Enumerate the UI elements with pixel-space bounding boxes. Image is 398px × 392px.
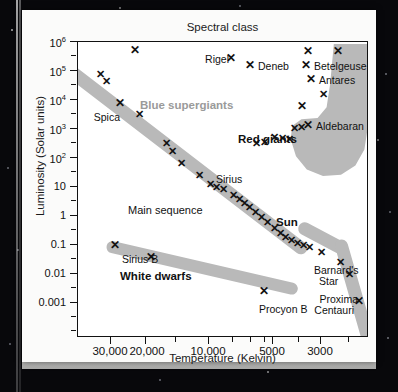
label-sirius-b: Sirius B [122, 253, 158, 265]
y-tick-minor [71, 55, 76, 56]
y-tick-label-1e2: 102 [50, 151, 66, 165]
y-tick-minor [71, 84, 76, 85]
x-tick-minor [298, 337, 299, 342]
data-point: ✕ [130, 44, 140, 56]
data-point-antares: ✕ [306, 73, 316, 85]
label-aldebaran: Aldebaran [316, 120, 364, 132]
label-spica: Spica [94, 111, 120, 123]
y-tick-minor [71, 142, 76, 143]
label-barnards-star: Star [319, 275, 338, 287]
y-tick-minor [71, 258, 76, 259]
y-tick-label-0.1: 0.1 [51, 238, 66, 250]
y-tick-10 [70, 186, 77, 187]
plot-area: ✕ ✕ ✕ ✕ ✕ ✕ ✕ ✕ ✕ ✕ ✕ ✕ ✕ ✕ ✕ ✕ ✕ ✕ ✕ ✕ … [77, 41, 368, 337]
y-tick-minor [71, 330, 76, 331]
label-blue-supergiants: Blue supergiants [140, 99, 233, 111]
spectral-class-title: Spectral class [77, 21, 368, 33]
label-rigel: Rigel [205, 53, 229, 65]
label-procyon-b: Procyon B [259, 303, 307, 315]
data-point: ✕ [168, 146, 177, 157]
hr-diagram-figure: Spectral class Temperature (Kelvin) Lumi… [0, 0, 398, 392]
y-tick-0.1 [70, 244, 77, 245]
x-tick-3000 [320, 337, 321, 344]
y-tick-minor [71, 113, 76, 114]
label-sirius: Sirius [216, 173, 242, 185]
x-tick-5000 [272, 337, 273, 344]
y-tick-0.01 [70, 273, 77, 274]
x-tick-label-10000: 10,000 [190, 345, 225, 357]
y-tick-1e6 [70, 41, 77, 42]
x-tick-minor [250, 337, 251, 342]
y-tick-minor [71, 316, 76, 317]
y-tick-label-0.001: 0.001 [38, 296, 66, 308]
white-dwarfs-band [105, 240, 299, 296]
y-tick-label-1e3: 103 [50, 122, 66, 136]
label-deneb: Deneb [258, 60, 289, 72]
y-tick-0.001 [70, 302, 77, 303]
y-axis-title: Luminosity (Solar units) [34, 66, 46, 246]
main-sequence-band-tail [334, 238, 367, 336]
data-point-spica: ✕ [115, 97, 125, 109]
x-tick-label-3000: 3000 [307, 345, 333, 357]
label-centauri: Centauri [314, 304, 354, 316]
x-tick-label-20000: 20,000 [129, 345, 164, 357]
y-tick-1e4 [70, 99, 77, 100]
x-tick-label-5000: 5000 [259, 345, 285, 357]
y-tick-label-0.01: 0.01 [45, 267, 66, 279]
x-tick-minor [232, 337, 233, 342]
x-tick-label-30000: 30,000 [92, 345, 127, 357]
light-streak-left-2 [19, 0, 21, 392]
label-main-sequence: Main sequence [128, 204, 203, 216]
x-tick-30000 [110, 337, 111, 344]
x-tick-minor [264, 337, 265, 342]
light-streak-left [16, 0, 18, 392]
y-tick-label-10: 10 [54, 180, 66, 192]
x-tick-10000 [208, 337, 209, 344]
data-point-procyon-b: ✕ [259, 285, 269, 297]
data-point: ✕ [317, 247, 326, 258]
y-tick-1 [70, 215, 77, 216]
y-tick-minor [71, 171, 76, 172]
data-point: ✕ [297, 100, 307, 112]
data-point: ✕ [319, 89, 328, 100]
y-tick-minor [71, 287, 76, 288]
data-point-deneb: ✕ [245, 59, 255, 71]
data-point: ✕ [305, 242, 314, 253]
data-point: ✕ [303, 45, 313, 57]
data-point: ✕ [219, 184, 228, 195]
data-point: ✕ [195, 170, 204, 181]
y-tick-1e3 [70, 128, 77, 129]
y-tick-minor [71, 229, 76, 230]
x-tick-minor [175, 337, 176, 342]
y-tick-label-1e5: 105 [50, 64, 66, 78]
plot-clip: ✕ ✕ ✕ ✕ ✕ ✕ ✕ ✕ ✕ ✕ ✕ ✕ ✕ ✕ ✕ ✕ ✕ ✕ ✕ ✕ … [78, 42, 367, 336]
y-tick-1e5 [70, 70, 77, 71]
label-sun: Sun [276, 216, 298, 228]
y-tick-label-1e4: 104 [50, 93, 66, 107]
data-point-sirius-b: ✕ [110, 239, 120, 251]
y-tick-label-1: 1 [60, 209, 66, 221]
data-point: ✕ [333, 45, 343, 57]
data-point: ✕ [102, 76, 111, 87]
data-point-betelgeuse: ✕ [301, 59, 311, 71]
data-point: ✕ [177, 158, 186, 169]
y-tick-label-1e6: 106 [50, 35, 66, 49]
label-betelgeuse: Betelgeuse [314, 60, 367, 72]
x-tick-minor [348, 337, 349, 342]
x-tick-20000 [145, 337, 146, 344]
label-antares: Antares [319, 74, 355, 86]
data-point-aldebaran: ✕ [303, 119, 313, 131]
label-red-giants: Red giants [238, 133, 297, 145]
y-tick-1e2 [70, 157, 77, 158]
label-white-dwarfs: White dwarfs [120, 270, 192, 282]
y-tick-minor [71, 200, 76, 201]
